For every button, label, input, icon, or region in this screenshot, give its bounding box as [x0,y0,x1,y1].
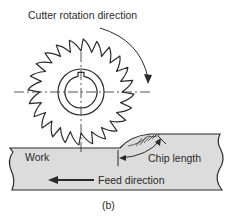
feed-direction-label: Feed direction [98,174,165,186]
milling-diagram: Cutter rotation direction Work Chip leng… [0,0,233,218]
rotation-label: Cutter rotation direction [28,9,137,21]
chip-length-label: Chip length [148,152,201,164]
figure-caption: (b) [102,199,115,211]
work-label: Work [25,151,50,163]
